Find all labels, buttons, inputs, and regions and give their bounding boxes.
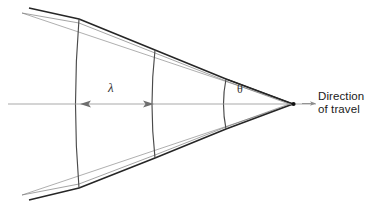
direction-line-1: Direction (318, 90, 364, 102)
angle-label: θ (237, 82, 243, 97)
wavelength-label: λ (108, 80, 114, 96)
dot-icon (291, 102, 295, 106)
direction-line-2: of travel (318, 103, 360, 115)
direction-of-travel-label: Directionof travel (318, 90, 364, 116)
